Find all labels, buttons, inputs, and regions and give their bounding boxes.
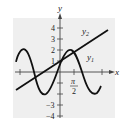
y-axis-arrow-icon [58, 13, 62, 19]
y-tick-label-2: 2 [51, 46, 55, 55]
chart: 4 3 2 1 −3 −4 π 2 x y y2 y1 [0, 0, 126, 125]
plot-background [13, 18, 115, 118]
y-tick-label-neg4: −4 [46, 112, 55, 121]
y-tick-label-3: 3 [51, 35, 55, 44]
y-tick-label-4: 4 [51, 24, 55, 33]
y-axis-label: y [57, 3, 62, 13]
y-tick-label-neg3: −3 [46, 101, 55, 110]
x-axis-label: x [114, 67, 119, 77]
x-tick-label-two: 2 [72, 87, 76, 96]
